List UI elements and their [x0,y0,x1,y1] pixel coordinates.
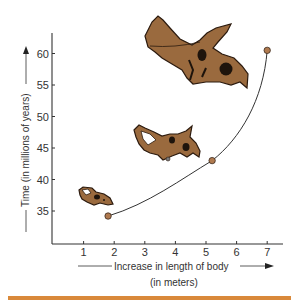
data-point-marker [264,47,270,53]
x-tick-label: 6 [234,246,240,258]
y-tick-label: 45 [37,142,49,154]
x-axis-arrow-icon [265,263,274,269]
x-tick-label: 7 [264,246,270,258]
medium-skull-illustration [134,125,200,161]
y-tick-label: 40 [37,174,49,186]
x-tick-label: 5 [203,246,209,258]
x-axis-label: Increase in length of body [114,261,229,272]
x-tick-label: 4 [172,246,178,258]
y-tick-label: 35 [37,205,49,217]
y-axis-title: Time (in millions of years) [20,46,31,232]
x-tick-label: 2 [111,246,117,258]
x-tick-label: 1 [81,246,87,258]
x-axis-title: Increase in length of body (in meters) [78,261,274,288]
x-tick-label: 3 [142,246,148,258]
y-axis-label: Time (in millions of years) [20,93,31,207]
small-skull-illustration [79,187,113,205]
y-tick-label: 50 [37,111,49,123]
y-tick-label: 55 [37,79,49,91]
data-point-marker [105,213,111,219]
data-point-marker [209,157,215,163]
evolution-chart: 354045505560 1234567 Time (in millions o… [0,0,295,302]
y-tick-label: 60 [37,48,49,60]
accent-divider-bar [8,296,291,300]
y-axis-arrow-icon [23,46,29,54]
x-axis-sublabel: (in meters) [150,277,198,288]
large-skull-illustration [145,16,248,88]
